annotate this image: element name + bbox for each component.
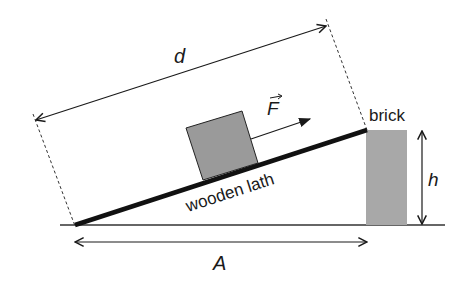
brick [366,130,407,225]
a-label: A [212,252,226,274]
force-arrow [251,119,310,139]
d-dimension-arrow [36,26,326,120]
force-label: F [267,98,280,119]
dashed-extension-right [326,19,367,130]
d-label: d [174,45,186,67]
inclined-plane-diagram: d wooden lath F brick h A [0,0,468,285]
dashed-extension-left [33,114,75,226]
h-label: h [428,169,439,190]
brick-label: brick [369,106,405,125]
